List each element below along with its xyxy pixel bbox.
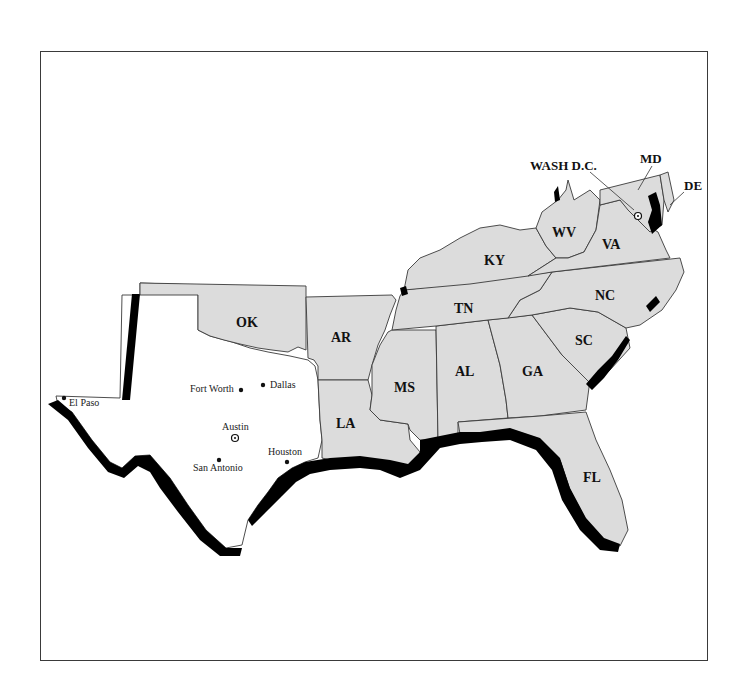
city-dot-houston — [285, 460, 289, 464]
capital-star-icon-austin — [232, 435, 239, 442]
city-dot-dallas — [261, 383, 265, 387]
label-ga: GA — [522, 364, 544, 379]
label-ar: AR — [331, 330, 352, 345]
coastal-band-wv-panhandle — [554, 186, 560, 202]
label-nc: NC — [595, 288, 615, 303]
city-label-san-antonio: San Antonio — [193, 462, 243, 473]
southern-us-map: OK AR LA MS AL GA FL SC NC TN KY WV VA W… — [0, 0, 735, 695]
city-dot-fort-worth — [239, 388, 243, 392]
label-ky: KY — [484, 253, 505, 268]
city-label-houston: Houston — [268, 446, 302, 457]
label-ms: MS — [394, 380, 415, 395]
dc-star-icon — [635, 213, 642, 220]
label-la: LA — [336, 416, 356, 431]
label-tn: TN — [454, 301, 473, 316]
city-dot-el-paso — [62, 396, 66, 400]
city-label-dallas: Dallas — [270, 379, 296, 390]
label-sc: SC — [575, 333, 593, 348]
label-wash-dc: WASH D.C. — [530, 158, 597, 173]
label-md: MD — [640, 151, 662, 166]
label-fl: FL — [583, 470, 601, 485]
city-label-el-paso: El Paso — [69, 397, 99, 408]
city-label-fort-worth: Fort Worth — [190, 383, 234, 394]
label-wv: WV — [552, 225, 576, 240]
label-al: AL — [455, 364, 474, 379]
city-label-austin: Austin — [222, 421, 249, 432]
label-va: VA — [602, 237, 621, 252]
label-ok: OK — [236, 315, 258, 330]
label-de: DE — [684, 178, 702, 193]
